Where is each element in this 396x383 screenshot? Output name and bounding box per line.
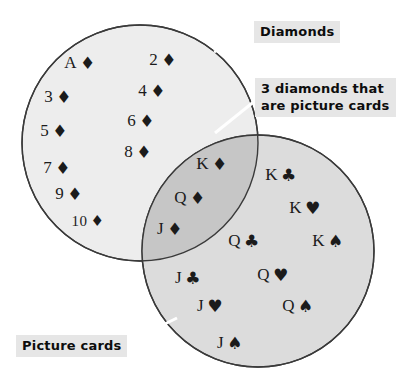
- card-rank: A: [64, 53, 77, 72]
- diamond-suit-icon: ♦: [167, 218, 183, 238]
- card-10-diamond: 10♦: [72, 211, 105, 229]
- label-intersection-note: 3 diamonds that are picture cards: [255, 78, 396, 117]
- diamond-suit-icon: ♦: [56, 86, 72, 106]
- card-q-club: Q♣: [228, 231, 260, 250]
- heart-suit-icon: ♥: [305, 197, 321, 217]
- card-k-club: K♣: [265, 165, 297, 184]
- card-j-diamond: J♦: [157, 219, 183, 238]
- card-9-diamond: 9♦: [55, 184, 83, 203]
- diamond-suit-icon: ♦: [136, 141, 152, 161]
- card-a-diamond: A♦: [64, 53, 96, 72]
- label-diamonds: Diamonds: [254, 21, 340, 43]
- card-6-diamond: 6♦: [127, 111, 155, 130]
- heart-suit-icon: ♥: [273, 264, 289, 284]
- diamond-suit-icon: ♦: [80, 52, 96, 72]
- card-rank: Q: [228, 231, 241, 250]
- card-rank: 4: [138, 81, 147, 100]
- card-q-diamond: Q♦: [174, 188, 206, 207]
- diamond-suit-icon: ♦: [52, 120, 68, 140]
- card-rank: K: [265, 165, 278, 184]
- label-intersection-note-line2: are picture cards: [261, 97, 390, 114]
- diamond-suit-icon: ♦: [139, 110, 155, 130]
- card-j-club: J♣: [175, 268, 201, 287]
- club-suit-icon: ♣: [244, 230, 260, 250]
- card-q-heart: Q♥: [257, 265, 289, 284]
- diamond-suit-icon: ♦: [67, 183, 83, 203]
- heart-suit-icon: ♥: [207, 295, 223, 315]
- card-3-diamond: 3♦: [44, 87, 72, 106]
- card-k-heart: K♥: [289, 198, 321, 217]
- card-rank: K: [289, 198, 302, 217]
- card-rank: Q: [257, 265, 270, 284]
- card-7-diamond: 7♦: [43, 158, 71, 177]
- card-rank: Q: [174, 188, 187, 207]
- card-rank: J: [175, 268, 182, 287]
- card-rank: J: [217, 333, 224, 352]
- card-rank: 10: [72, 213, 88, 229]
- card-rank: K: [196, 154, 209, 173]
- diamond-suit-icon: ♦: [91, 212, 105, 230]
- card-4-diamond: 4♦: [138, 81, 166, 100]
- card-5-diamond: 5♦: [40, 121, 68, 140]
- diamond-suit-icon: ♦: [212, 153, 228, 173]
- card-rank: 3: [44, 87, 53, 106]
- card-q-spade: Q♠: [282, 296, 314, 315]
- card-rank: 6: [127, 111, 136, 130]
- card-rank: 9: [55, 184, 64, 203]
- card-k-spade: K♠: [312, 231, 344, 250]
- card-k-diamond: K♦: [196, 154, 228, 173]
- card-rank: J: [157, 219, 164, 238]
- card-j-heart: J♥: [197, 296, 223, 315]
- card-rank: 5: [40, 121, 49, 140]
- card-rank: J: [197, 296, 204, 315]
- diamond-suit-icon: ♦: [55, 157, 71, 177]
- label-picture-cards: Picture cards: [16, 335, 127, 357]
- card-rank: 7: [43, 158, 52, 177]
- diamond-suit-icon: ♦: [150, 80, 166, 100]
- club-suit-icon: ♣: [281, 164, 297, 184]
- spade-suit-icon: ♠: [328, 230, 344, 250]
- card-2-diamond: 2♦: [149, 50, 177, 69]
- card-rank: 2: [149, 50, 158, 69]
- diamond-suit-icon: ♦: [190, 187, 206, 207]
- card-rank: Q: [282, 296, 295, 315]
- club-suit-icon: ♣: [185, 267, 201, 287]
- leader-line-picture-cards: [132, 318, 177, 340]
- diamond-suit-icon: ♦: [161, 49, 177, 69]
- card-8-diamond: 8♦: [124, 142, 152, 161]
- label-intersection-note-line1: 3 diamonds that: [261, 80, 390, 97]
- leader-line-diamonds: [214, 33, 256, 52]
- card-rank: 8: [124, 142, 133, 161]
- card-rank: K: [312, 231, 325, 250]
- venn-diagram-figure: Diamonds 3 diamonds that are picture car…: [0, 0, 396, 383]
- card-j-spade: J♠: [217, 333, 243, 352]
- spade-suit-icon: ♠: [227, 332, 243, 352]
- spade-suit-icon: ♠: [298, 295, 314, 315]
